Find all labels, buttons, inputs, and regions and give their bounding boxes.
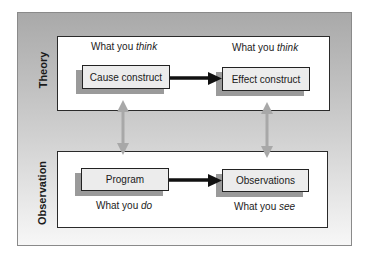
caption-prefix: What you <box>232 42 277 53</box>
caption-emphasis: do <box>141 200 152 211</box>
theory-left-caption: What you think <box>91 41 157 52</box>
observation-label: Observation <box>35 153 49 233</box>
caption-emphasis: think <box>277 42 298 53</box>
caption-prefix: What you <box>96 200 141 211</box>
caption-prefix: What you <box>91 41 136 52</box>
observation-left-caption: What you do <box>96 200 152 211</box>
program-box: Program <box>81 168 169 191</box>
theory-label: Theory <box>36 40 50 100</box>
effect-construct-box: Effect construct <box>222 67 310 91</box>
caption-prefix: What you <box>234 201 279 212</box>
caption-emphasis: think <box>136 41 157 52</box>
cause-construct-box: Cause construct <box>82 65 170 89</box>
theory-right-caption: What you think <box>232 42 298 53</box>
observations-box: Observations <box>222 169 309 192</box>
observation-right-caption: What you see <box>234 201 295 212</box>
caption-emphasis: see <box>279 201 295 212</box>
